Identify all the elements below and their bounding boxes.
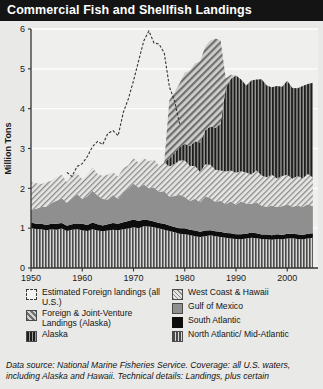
x-tick-label: 2000	[277, 273, 297, 283]
x-tick-label: 1960	[72, 273, 92, 283]
legend-item-south-atlantic[interactable]: South Atlantic	[172, 316, 322, 328]
y-tick-label: 6	[20, 24, 25, 34]
legend-label: Alaska	[42, 330, 68, 340]
legend-item-gulf-of-mexico[interactable]: Gulf of Mexico	[172, 302, 322, 314]
gulf-of-mexico-swatch-icon	[172, 303, 183, 314]
estimated-foreign-landings-swatch-icon	[26, 289, 37, 300]
y-tick-label: 0	[20, 263, 25, 273]
landings-stacked-area-chart: 0123456 195019601970198019902000 Million…	[0, 21, 323, 283]
x-tick-labels: 195019601970198019902000	[21, 273, 297, 283]
legend-column-right: West Coast & HawaiiGulf of MexicoSouth A…	[172, 288, 322, 344]
y-tick-label: 5	[20, 64, 25, 74]
y-axis-title: Million Tons	[3, 123, 13, 175]
x-tick-label: 1950	[21, 273, 41, 283]
chart-legend: Estimated Foreign landings (all U.S.)For…	[0, 288, 323, 356]
alaska-swatch-icon	[26, 331, 37, 342]
legend-item-foreign-joint-venture[interactable]: Foreign & Joint-Venture Landings (Alaska…	[26, 309, 166, 328]
y-tick-label: 2	[20, 184, 25, 194]
y-tick-label: 4	[20, 104, 25, 114]
chart-page: Commercial Fish and Shellfish Landings	[0, 0, 323, 389]
foreign-joint-venture-swatch-icon	[26, 310, 37, 321]
source-note: Data source: National Marine Fisheries S…	[6, 360, 319, 382]
title-bar: Commercial Fish and Shellfish Landings	[0, 0, 323, 21]
legend-label: Foreign & Joint-Venture Landings (Alaska…	[42, 309, 166, 328]
x-tick-label: 1970	[123, 273, 143, 283]
y-tick-label: 1	[20, 223, 25, 233]
y-tick-label: 3	[20, 144, 25, 154]
page-title: Commercial Fish and Shellfish Landings	[7, 3, 252, 17]
south-atlantic-swatch-icon	[172, 317, 183, 328]
y-tick-labels: 0123456	[20, 24, 25, 273]
legend-label: South Atlantic	[188, 316, 241, 326]
west-coast-hawaii-swatch-icon	[172, 289, 183, 300]
legend-label: West Coast & Hawaii	[188, 288, 269, 298]
legend-item-alaska[interactable]: Alaska	[26, 330, 166, 342]
x-tick-label: 1980	[175, 273, 195, 283]
legend-item-north-atlantic-mid-atlantic[interactable]: North Atlantic/ Mid-Atlantic	[172, 330, 322, 342]
chart-container: 0123456 195019601970198019902000 Million…	[0, 21, 323, 283]
legend-label: Gulf of Mexico	[188, 302, 243, 312]
legend-item-estimated-foreign-landings[interactable]: Estimated Foreign landings (all U.S.)	[26, 288, 166, 307]
legend-column-left: Estimated Foreign landings (all U.S.)For…	[26, 288, 166, 344]
x-tick-label: 1990	[226, 273, 246, 283]
north-atlantic-mid-atlantic-swatch-icon	[172, 331, 183, 342]
legend-label: Estimated Foreign landings (all U.S.)	[42, 288, 166, 307]
y-axis-title-text: Million Tons	[3, 123, 13, 175]
legend-label: North Atlantic/ Mid-Atlantic	[188, 330, 289, 340]
legend-item-west-coast-hawaii[interactable]: West Coast & Hawaii	[172, 288, 322, 300]
